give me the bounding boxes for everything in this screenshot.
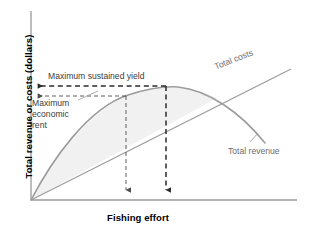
annotation-maximum-sustained-yield: Maximum sustained yield	[48, 71, 144, 81]
series-label-total-revenue: Total revenue	[228, 146, 280, 156]
mer-leader-line	[78, 91, 98, 100]
annotation-mer-line-2: economic	[32, 109, 69, 119]
annotation-maximum-economic-rent: Maximumeconomicrent	[32, 98, 69, 132]
fishery-bioeconomic-chart: Total revenue or costs (dollars) Fishing…	[0, 0, 314, 231]
x-axis-title: Fishing effort	[107, 212, 169, 223]
annotation-mer-line-3: rent	[32, 120, 47, 130]
total-revenue-leader-line	[250, 133, 258, 142]
annotation-mer-line-1: Maximum	[32, 98, 69, 108]
